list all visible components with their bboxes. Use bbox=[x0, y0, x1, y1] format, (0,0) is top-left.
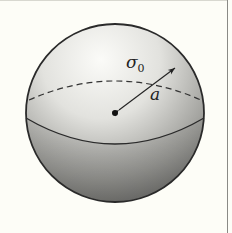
sphere-diagram: σ0 a bbox=[0, 0, 232, 233]
radius-label: a bbox=[150, 84, 160, 104]
sphere-figure: σ0 a bbox=[0, 0, 232, 233]
center-point bbox=[112, 110, 118, 116]
frame-top-border bbox=[0, 0, 228, 1]
frame-right-border bbox=[227, 0, 228, 233]
